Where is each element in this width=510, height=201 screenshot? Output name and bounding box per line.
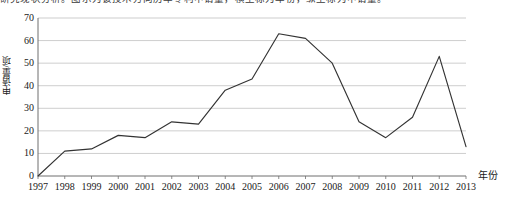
x-tick-label: 2012: [429, 180, 449, 194]
x-tick-label: 2000: [108, 180, 128, 194]
y-tick-label: 30: [24, 103, 34, 113]
y-axis-tick-labels: 010203040506070: [14, 0, 36, 201]
x-tick-label: 2006: [269, 180, 289, 194]
data-series-line: [38, 34, 466, 176]
x-tick-label: 2010: [376, 180, 396, 194]
x-tick-label: 2009: [349, 180, 369, 194]
x-tick-label: 2003: [189, 180, 209, 194]
plot-svg: [38, 18, 466, 176]
x-tick-label: 1999: [82, 180, 102, 194]
x-tick-label: 1997: [28, 180, 48, 194]
x-tick-label: 2013: [456, 180, 476, 194]
y-tick-label: 10: [24, 148, 34, 158]
y-tick-label: 40: [24, 81, 34, 91]
x-tick-label: 2002: [162, 180, 182, 194]
plot-area: [38, 18, 466, 176]
x-tick-label: 2004: [215, 180, 235, 194]
patent-application-line-chart: 研究现状分析。图示为该技术方向历年专利申请量，横坐标为年份，纵坐标为申请量。 申…: [0, 0, 510, 201]
y-tick-label: 20: [24, 126, 34, 136]
x-tick-label: 2008: [322, 180, 342, 194]
y-axis-title: 申请量/项: [1, 56, 14, 95]
x-tick-label: 2005: [242, 180, 262, 194]
x-axis-tick-labels: 1997199819992000200120022003200420052006…: [0, 180, 510, 196]
y-tick-label: 50: [24, 58, 34, 68]
x-tick-label: 2001: [135, 180, 155, 194]
x-tick-label: 1998: [55, 180, 75, 194]
y-tick-label: 60: [24, 36, 34, 46]
gridlines: [38, 18, 466, 176]
x-tick-label: 2011: [403, 180, 423, 194]
figure-caption-clipped: 研究现状分析。图示为该技术方向历年专利申请量，横坐标为年份，纵坐标为申请量。: [0, 0, 510, 5]
x-tick-label: 2007: [296, 180, 316, 194]
y-tick-label: 70: [24, 13, 34, 23]
x-axis-title: 年份: [478, 170, 498, 182]
